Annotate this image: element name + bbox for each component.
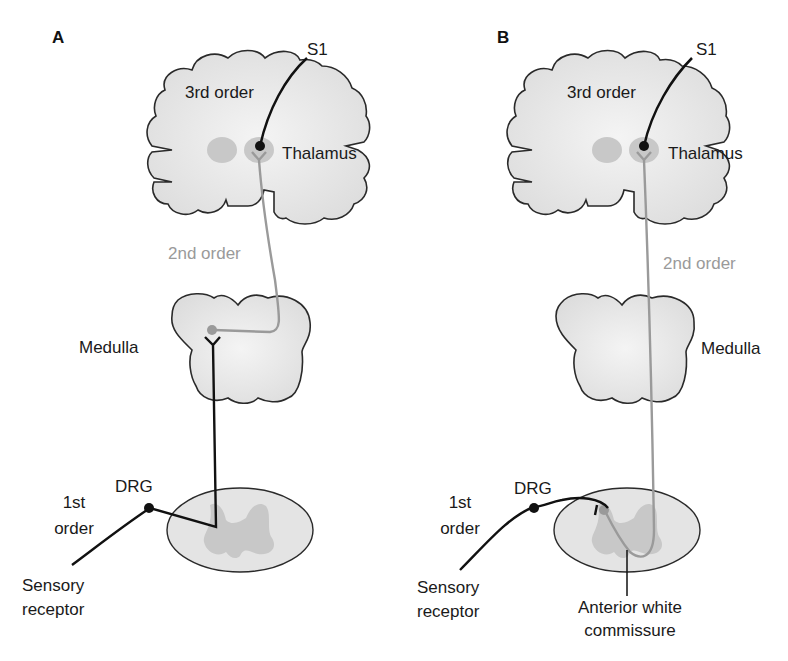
panel-label-b: B <box>497 28 509 48</box>
first-order-label-b: 1st order <box>434 493 486 538</box>
third-order-label-b: 3rd order <box>567 83 636 102</box>
brain-section-b <box>507 51 730 225</box>
medulla-label-b: Medulla <box>701 339 761 358</box>
third-order-soma-b <box>639 141 649 151</box>
sensory-receptor-label-a: Sensory receptor <box>22 576 84 619</box>
thalamus-left-b <box>592 137 622 163</box>
drg-label-a: DRG <box>115 477 153 496</box>
s1-label-a: S1 <box>307 40 328 59</box>
first-order-label-a: 1st order <box>48 493 100 538</box>
drg-soma-a <box>144 503 154 513</box>
medulla-a <box>172 294 310 404</box>
third-order-soma-a <box>255 141 265 151</box>
anterior-white-commissure-label: Anterior white commissure <box>555 598 705 640</box>
thalamus-left-a <box>207 137 237 163</box>
third-order-label-a: 3rd order <box>185 83 254 102</box>
panel-b-graphic <box>460 51 730 597</box>
drg-soma-b <box>529 503 539 513</box>
s1-label-b: S1 <box>696 40 717 59</box>
second-order-label-b: 2nd order <box>663 254 736 273</box>
pathway-diagram <box>0 0 788 661</box>
medulla-b <box>556 294 694 404</box>
thalamus-label-b: Thalamus <box>668 144 743 163</box>
second-order-label-a: 2nd order <box>168 244 241 263</box>
sensory-receptor-label-b: Sensory receptor <box>417 578 479 621</box>
thalamus-label-a: Thalamus <box>282 144 357 163</box>
medulla-label-a: Medulla <box>79 338 139 357</box>
drg-label-b: DRG <box>514 479 552 498</box>
second-order-soma-a <box>207 325 217 335</box>
panel-label-a: A <box>52 28 64 48</box>
